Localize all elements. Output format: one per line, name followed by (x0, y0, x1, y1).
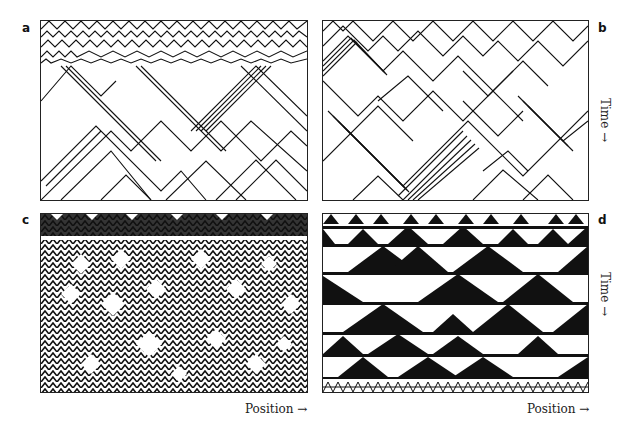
panel-label-b: b (598, 21, 607, 35)
panel-a-plot (40, 20, 308, 201)
x-axis-label-right: Position → (527, 402, 589, 416)
cellular-automaton-b-graphic (323, 21, 588, 200)
panel-b-plot (322, 20, 589, 201)
panel-c-plot (40, 213, 308, 393)
panel-label-d: d (598, 213, 607, 227)
cellular-automaton-a-graphic (41, 21, 307, 200)
cellular-automaton-d-graphic (323, 214, 588, 392)
x-axis-label-left: Position → (245, 402, 307, 416)
y-axis-label-bottom: Time → (598, 272, 612, 316)
y-axis-label-top: Time → (598, 98, 612, 142)
panel-d-plot (322, 213, 589, 393)
cellular-automaton-c-graphic (41, 214, 307, 392)
panel-label-a: a (22, 21, 30, 35)
panel-label-c: c (22, 213, 29, 227)
